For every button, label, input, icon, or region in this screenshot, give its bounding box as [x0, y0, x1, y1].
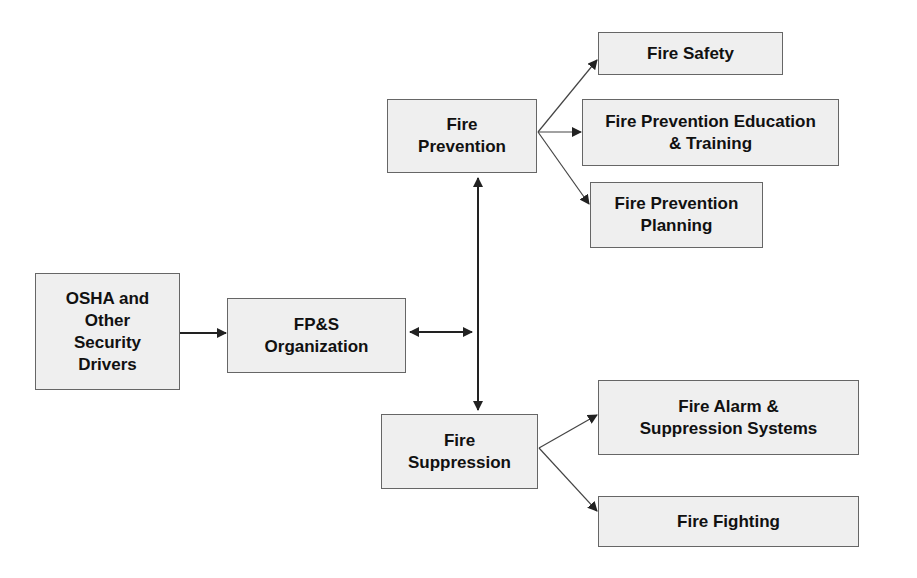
- node-fire-prevention: Fire Prevention: [387, 99, 537, 173]
- node-fire-safety: Fire Safety: [598, 32, 783, 75]
- node-osha-drivers: OSHA and Other Security Drivers: [35, 273, 180, 390]
- arrow-suppression-alarm: [539, 415, 597, 448]
- arrow-suppression-fighting: [539, 448, 597, 511]
- node-fps-organization: FP&S Organization: [227, 298, 406, 373]
- node-fire-prevention-planning: Fire Prevention Planning: [590, 182, 763, 248]
- node-fire-suppression: Fire Suppression: [381, 414, 538, 489]
- node-fire-fighting: Fire Fighting: [598, 496, 859, 547]
- node-fire-alarm-systems: Fire Alarm & Suppression Systems: [598, 380, 859, 455]
- node-fire-prevention-education: Fire Prevention Education & Training: [582, 99, 839, 166]
